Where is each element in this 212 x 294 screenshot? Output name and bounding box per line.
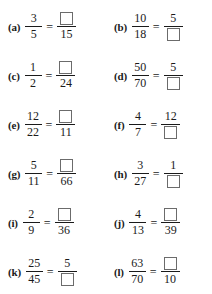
left-numerator: 4 (131, 109, 145, 124)
left-denominator: 22 (26, 125, 40, 140)
problem-c: (c)12=24 (0, 51, 106, 100)
right-numerator: 12 (164, 109, 178, 124)
equals-sign: = (150, 217, 157, 229)
blank-box-right-numerator[interactable] (60, 11, 74, 26)
problem-k: (k)2545=5 (0, 247, 106, 294)
answer-blank-icon[interactable] (167, 175, 180, 188)
equals-sign: = (46, 168, 53, 180)
problem-grid: (a)35=15(b)1018=5(c)12=24(d)5070=5(e)122… (0, 0, 212, 294)
problem-label: (j) (114, 217, 124, 229)
problem-label: (e) (8, 119, 20, 131)
fraction-left: 1018 (132, 11, 149, 42)
right-numerator: 5 (166, 60, 180, 75)
answer-blank-icon[interactable] (164, 257, 177, 270)
fraction-left: 413 (129, 207, 146, 238)
blank-box-right-numerator[interactable] (57, 207, 71, 222)
equals-sign: = (153, 21, 160, 33)
left-numerator: 12 (26, 109, 40, 124)
equals-sign: = (153, 70, 160, 82)
problem-label: (i) (8, 217, 18, 229)
equals-sign: = (46, 21, 53, 33)
blank-box-right-numerator[interactable] (163, 256, 177, 271)
blank-box-right-numerator[interactable] (60, 158, 74, 173)
right-numerator: 5 (60, 256, 74, 271)
fraction-left: 5070 (132, 60, 149, 91)
left-denominator: 27 (133, 174, 147, 189)
problem-label: (b) (114, 21, 127, 33)
answer-blank-icon[interactable] (59, 110, 72, 123)
right-denominator: 10 (163, 272, 177, 287)
left-denominator: 13 (131, 223, 145, 238)
left-numerator: 3 (27, 11, 41, 26)
equation: 2545=5 (26, 256, 77, 287)
left-numerator: 2 (24, 207, 38, 222)
right-denominator: 11 (59, 125, 73, 140)
right-denominator: 36 (57, 223, 71, 238)
answer-blank-icon[interactable] (167, 28, 180, 41)
fraction-right: 12 (161, 109, 180, 140)
left-numerator: 25 (27, 256, 41, 271)
left-denominator: 70 (133, 76, 147, 91)
right-numerator: 5 (166, 11, 180, 26)
left-denominator: 5 (27, 27, 41, 42)
problem-label: (g) (8, 168, 20, 180)
equals-sign: = (153, 168, 160, 180)
problem-label: (k) (8, 266, 21, 278)
fraction-left: 511 (25, 158, 42, 189)
answer-blank-icon[interactable] (61, 273, 74, 286)
equation: 29=36 (23, 207, 74, 238)
blank-box-right-numerator[interactable] (59, 60, 73, 75)
blank-box-right-denominator[interactable] (60, 272, 74, 287)
equation: 413=39 (129, 207, 180, 238)
equals-sign: = (47, 266, 54, 278)
blank-box-right-denominator[interactable] (166, 174, 180, 189)
right-denominator: 24 (59, 76, 73, 91)
fraction-left: 1222 (25, 109, 42, 140)
equals-sign: = (150, 119, 157, 131)
left-numerator: 10 (133, 11, 147, 26)
blank-box-right-denominator[interactable] (164, 125, 178, 140)
equals-sign: = (150, 266, 157, 278)
left-numerator: 63 (130, 256, 144, 271)
fraction-right: 5 (164, 60, 183, 91)
answer-blank-icon[interactable] (60, 159, 73, 172)
left-numerator: 3 (133, 158, 147, 173)
equation: 327=1 (132, 158, 183, 189)
fraction-right: 5 (164, 11, 183, 42)
blank-box-right-denominator[interactable] (166, 27, 180, 42)
left-denominator: 2 (26, 76, 40, 91)
left-numerator: 4 (131, 207, 145, 222)
problem-i: (i)29=36 (0, 198, 106, 247)
blank-box-right-denominator[interactable] (166, 76, 180, 91)
fraction-left: 35 (25, 11, 42, 42)
answer-blank-icon[interactable] (60, 12, 73, 25)
problem-label: (a) (8, 21, 20, 33)
equation: 12=24 (25, 60, 76, 91)
right-denominator: 39 (164, 223, 178, 238)
problem-label: (f) (114, 119, 124, 131)
equation: 6370=10 (129, 256, 180, 287)
answer-blank-icon[interactable] (164, 208, 177, 221)
left-numerator: 50 (133, 60, 147, 75)
fraction-left: 47 (129, 109, 146, 140)
equation: 511=66 (25, 158, 76, 189)
answer-blank-icon[interactable] (58, 208, 71, 221)
answer-blank-icon[interactable] (59, 61, 72, 74)
left-denominator: 45 (27, 272, 41, 287)
problem-e: (e)1222=11 (0, 100, 106, 149)
equation: 1222=11 (25, 109, 76, 140)
blank-box-right-numerator[interactable] (164, 207, 178, 222)
left-denominator: 70 (130, 272, 144, 287)
fraction-right: 10 (161, 256, 180, 287)
answer-blank-icon[interactable] (167, 77, 180, 90)
problem-label: (l) (114, 266, 124, 278)
left-denominator: 9 (24, 223, 38, 238)
fraction-right: 11 (56, 109, 75, 140)
fraction-right: 1 (164, 158, 183, 189)
right-numerator: 1 (166, 158, 180, 173)
problem-label: (h) (114, 168, 127, 180)
problem-l: (l)6370=10 (106, 247, 212, 294)
blank-box-right-numerator[interactable] (59, 109, 73, 124)
fraction-right: 24 (56, 60, 75, 91)
answer-blank-icon[interactable] (164, 126, 177, 139)
